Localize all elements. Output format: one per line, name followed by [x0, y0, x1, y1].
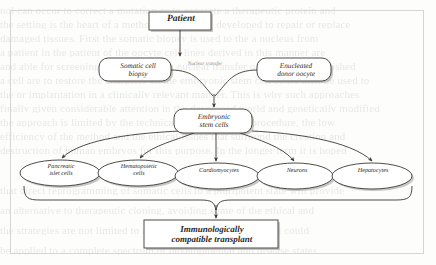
edge-escells-to-hemato — [140, 132, 196, 158]
node-embryonic-stem-cells — [174, 109, 252, 133]
edge-escells-to-neurons — [238, 132, 294, 161]
edge-escells-to-hepato — [252, 131, 372, 161]
diagram-canvas — [0, 0, 436, 265]
node-cardiomyocytes — [175, 163, 259, 189]
node-hepatocytes — [332, 163, 412, 189]
edge-oocyte-to-junction — [215, 70, 258, 96]
edge-somatic-to-junction — [170, 70, 213, 96]
node-immunologically-compatible-transplant — [144, 220, 278, 248]
node-enucleated-donor-oocyte — [257, 58, 331, 81]
node-hematopoietic-cells — [98, 160, 178, 186]
node-pancreatic-islet-cells — [20, 160, 100, 186]
edge-brace-left — [24, 186, 216, 210]
figure-page: nol can occur to correct a mutation or t… — [0, 0, 436, 265]
node-patient — [149, 12, 211, 30]
node-neurons — [257, 163, 333, 189]
node-somatic-cell-biopsy — [99, 58, 171, 81]
